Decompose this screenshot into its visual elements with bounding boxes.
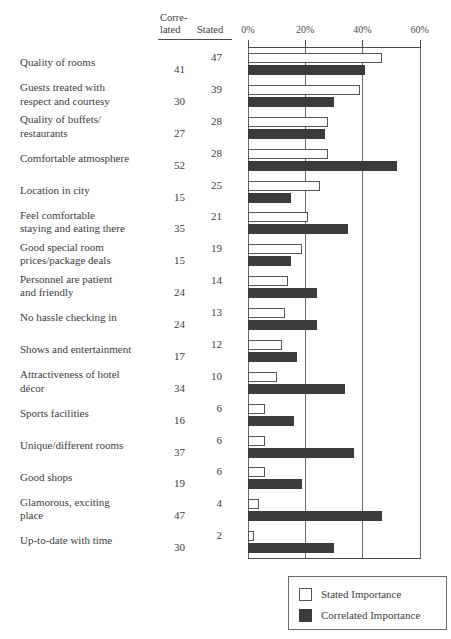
category-label-line: Shows and entertainment	[20, 343, 160, 357]
value-stated: 6	[200, 434, 222, 447]
bar-stated-importance	[248, 340, 282, 350]
category-label-line: place	[20, 509, 160, 523]
value-correlated: 27	[163, 127, 185, 140]
category-label-line: Quality of buffets/	[20, 113, 160, 127]
bar-stated-importance	[248, 85, 360, 95]
value-stated: 12	[200, 338, 222, 351]
value-correlated: 24	[163, 318, 185, 331]
value-stated: 6	[200, 402, 222, 415]
bar-stated-importance	[248, 372, 277, 382]
category-label: Guests treated withrespect and courtesy	[20, 81, 160, 108]
bar-stated-importance	[248, 276, 288, 286]
bar-stated-importance	[248, 499, 259, 509]
value-stated: 28	[200, 147, 222, 160]
value-correlated: 24	[163, 286, 185, 299]
bar-correlated-importance	[248, 65, 365, 75]
value-stated: 10	[200, 370, 222, 383]
category-label: Up-to-date with time	[20, 534, 160, 548]
column-header-correlated-line2: lated	[160, 24, 194, 36]
value-stated: 39	[200, 83, 222, 96]
correlated-swatch-icon	[299, 609, 312, 622]
value-stated: 14	[200, 274, 222, 287]
x-axis-tick-mark	[305, 40, 306, 48]
category-label-line: Unique/different rooms	[20, 439, 160, 453]
x-axis-tick-label: 0%	[241, 24, 254, 36]
bar-stated-importance	[248, 244, 302, 254]
bar-correlated-importance	[248, 97, 334, 107]
bar-stated-importance	[248, 404, 265, 414]
bar-stated-importance	[248, 308, 285, 318]
category-label: Personnel are patientand friendly	[20, 273, 160, 300]
category-label-line: Glamorous, exciting	[20, 496, 160, 510]
category-label-line: No hassle checking in	[20, 311, 160, 325]
category-label: Feel comfortablestaying and eating there	[20, 209, 160, 236]
bar-correlated-importance	[248, 224, 348, 234]
category-label-line: Guests treated with	[20, 81, 160, 95]
bar-correlated-importance	[248, 448, 354, 458]
category-label: Quality of rooms	[20, 56, 160, 70]
category-label-line: Feel comfortable	[20, 209, 160, 223]
column-header-correlated: Corre- lated	[160, 12, 194, 36]
value-stated: 2	[200, 529, 222, 542]
bar-correlated-importance	[248, 256, 291, 266]
bar-correlated-importance	[248, 288, 317, 298]
category-label-line: Personnel are patient	[20, 273, 160, 287]
x-axis-tick-label: 20%	[296, 24, 314, 36]
bar-stated-importance	[248, 212, 308, 222]
category-label: Location in city	[20, 184, 160, 198]
table-header: Corre- lated Stated	[0, 0, 451, 48]
category-label-line: Sports facilities	[20, 407, 160, 421]
x-axis-tick-label: 40%	[353, 24, 371, 36]
column-header-stated: Stated	[197, 24, 223, 36]
x-axis-tick-mark	[362, 40, 363, 48]
value-correlated: 15	[163, 254, 185, 267]
bar-correlated-importance	[248, 384, 345, 394]
category-label-line: prices/package deals	[20, 254, 160, 268]
value-stated: 28	[200, 115, 222, 128]
x-axis-tick-label: 60%	[410, 24, 428, 36]
bar-stated-importance	[248, 117, 328, 127]
value-correlated: 19	[163, 477, 185, 490]
bar-stated-importance	[248, 149, 328, 159]
category-label-line: respect and courtesy	[20, 95, 160, 109]
value-correlated: 30	[163, 541, 185, 554]
bar-stated-importance	[248, 53, 382, 63]
stated-swatch-icon	[299, 588, 312, 601]
bar-correlated-importance	[248, 543, 334, 553]
bar-correlated-importance	[248, 129, 325, 139]
value-stated: 25	[200, 179, 222, 192]
category-label-line: Quality of rooms	[20, 56, 160, 70]
category-label-line: Up-to-date with time	[20, 534, 160, 548]
value-stated: 19	[200, 242, 222, 255]
value-correlated: 15	[163, 191, 185, 204]
bar-correlated-importance	[248, 193, 291, 203]
bar-stated-importance	[248, 467, 265, 477]
bar-stated-importance	[248, 531, 254, 541]
category-label: Quality of buffets/restaurants	[20, 113, 160, 140]
value-correlated: 52	[163, 159, 185, 172]
bar-correlated-importance	[248, 416, 294, 426]
value-stated: 4	[200, 497, 222, 510]
category-label: Glamorous, excitingplace	[20, 496, 160, 523]
value-correlated: 16	[163, 414, 185, 427]
bar-correlated-importance	[248, 352, 297, 362]
category-label: No hassle checking in	[20, 311, 160, 325]
category-label: Unique/different rooms	[20, 439, 160, 453]
category-label-line: Good special room	[20, 241, 160, 255]
bar-stated-importance	[248, 436, 265, 446]
bar-correlated-importance	[248, 320, 317, 330]
category-label-line: Attractiveness of hotel	[20, 368, 160, 382]
bar-correlated-importance	[248, 479, 302, 489]
value-correlated: 30	[163, 95, 185, 108]
legend-label-stated: Stated Importance	[321, 588, 401, 601]
value-correlated: 41	[163, 63, 185, 76]
category-label-line: Comfortable atmosphere	[20, 152, 160, 166]
legend-item-stated[interactable]: Stated Importance	[299, 586, 401, 602]
x-axis-tick-mark	[420, 40, 421, 48]
chart-legend: Stated Importance Correlated Importance	[288, 576, 447, 630]
x-axis-tick-mark	[248, 40, 249, 48]
bar-correlated-importance	[248, 161, 397, 171]
category-label: Good shops	[20, 471, 160, 485]
category-label: Attractiveness of hoteldécor	[20, 368, 160, 395]
legend-item-correlated[interactable]: Correlated Importance	[299, 607, 420, 623]
